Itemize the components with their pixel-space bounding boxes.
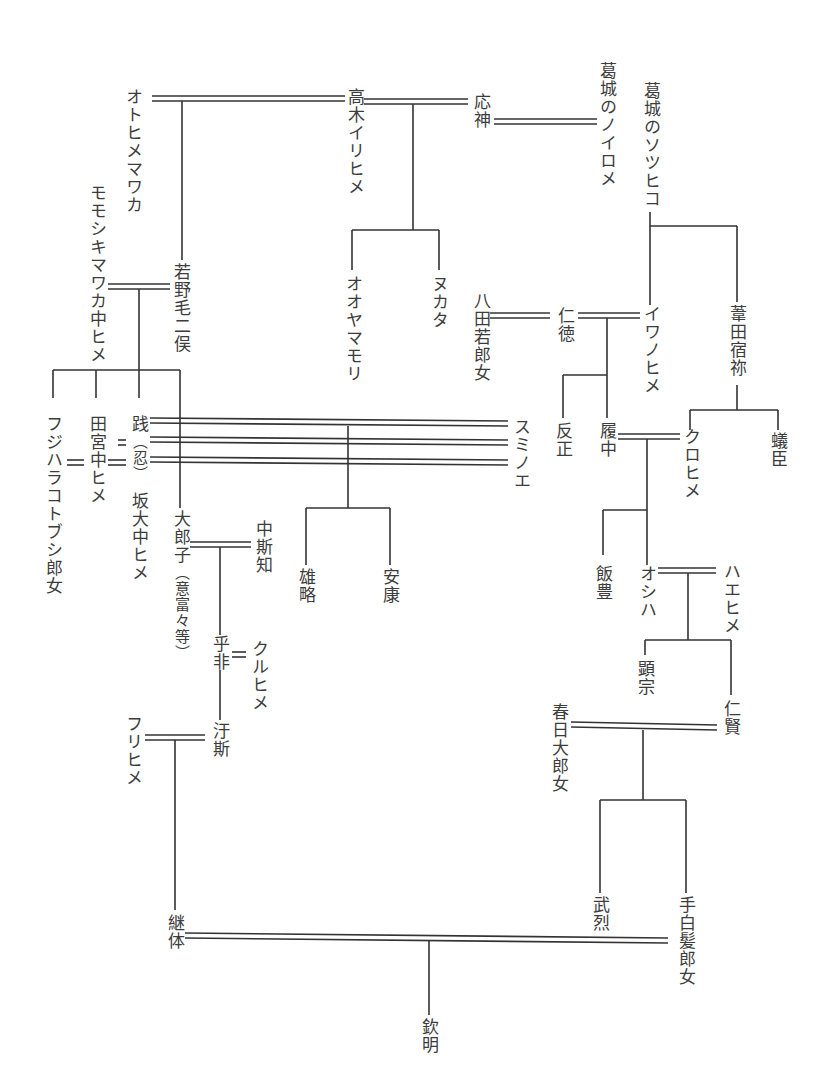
person-ojin: 応神: [472, 93, 490, 129]
person-yata-wakiiratsume: 八田若郎女: [472, 292, 490, 382]
person-hanzei: 反正: [554, 422, 572, 458]
person-oiratsuko: 大郎子: [172, 510, 190, 564]
person-kurohime: クロヒメ: [682, 428, 700, 500]
person-hohi: 乎非: [211, 635, 229, 671]
person-katsuragi-noirome: 葛城のノイロメ: [598, 62, 616, 188]
person-tashiraka: 手白髪郎女: [677, 896, 695, 986]
person-furihime: フリヒメ: [124, 715, 142, 787]
person-kenzo: 顕宗: [636, 660, 654, 696]
person-haehime: ハエヒメ: [722, 563, 740, 635]
person-nintoku: 仁徳: [556, 307, 574, 343]
person-richu: 履中: [598, 422, 616, 458]
person-tamiya-nakahime: 田宮中ヒメ: [88, 415, 106, 505]
person-ari-omi: 蟻臣: [769, 432, 787, 468]
person-iitoyo: 飯豊: [594, 565, 612, 601]
person-anko: 安康: [381, 568, 399, 604]
person-wakanoke-futamata: 若野毛二俣: [172, 263, 190, 353]
person-otohime-mawaka: オトヒメマワカ: [124, 88, 142, 214]
person-ninken: 仁賢: [722, 700, 740, 736]
person-momoshiki-mawaka: モモシキマワカ中ヒメ: [88, 184, 106, 364]
person-takaki-irihime: 高木イリヒメ: [346, 88, 364, 196]
person-iwanohime: イワノヒメ: [642, 305, 660, 395]
person-kasuga-oiratsume: 春日大郎女: [550, 703, 568, 793]
person-ashida-sukune: 葦田宿祢: [728, 305, 746, 377]
person-ofuto-paren: （意富々等）: [172, 565, 190, 661]
person-ushi: 汙斯: [211, 722, 229, 758]
person-kuruhime: クルヒメ: [250, 640, 268, 712]
person-nakashichi: 中斯知: [254, 520, 272, 574]
person-oyamamori: オオヤマモリ: [344, 275, 362, 383]
person-buretsu: 武烈: [591, 896, 609, 932]
person-oshiha: オシハ: [638, 565, 656, 619]
person-sen: 践: [130, 415, 148, 433]
person-nukata: ヌカタ: [430, 275, 448, 329]
genealogy-diagram: オトヒメマワカ 高木イリヒメ 応神 葛城のノイロメ 葛城のソツヒコ モモシキマワ…: [0, 0, 824, 1092]
person-katsuragi-sotsuhiko: 葛城のソツヒコ: [642, 82, 660, 208]
person-oshi-paren: （忍）: [130, 434, 148, 482]
person-kinmei: 欽明: [420, 1018, 438, 1054]
person-keitai: 継体: [166, 914, 184, 950]
person-osaka-nakahime: 坂大中ヒメ: [130, 492, 148, 582]
person-fujihara-kotobushi: フジハラコトブシ郎女: [44, 415, 62, 595]
person-sumino-e: スミノエ: [512, 418, 530, 490]
person-yuryaku: 雄略: [297, 568, 315, 604]
